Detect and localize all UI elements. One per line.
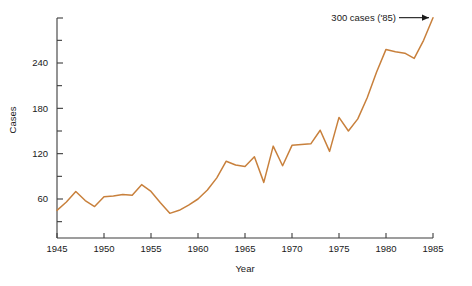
x-tick-label: 1975 <box>328 243 349 254</box>
x-tick-label: 1960 <box>187 243 208 254</box>
x-tick-label: 1980 <box>375 243 396 254</box>
y-axis-title: Cases <box>7 106 18 133</box>
annotation-label: 300 cases ('85) <box>331 12 396 23</box>
chart-figure: 60120180240 1945195019551960196519701975… <box>0 0 472 286</box>
x-tick-label: 1970 <box>281 243 302 254</box>
peak-annotation: 300 cases ('85) <box>331 12 429 23</box>
line-chart: 60120180240 1945195019551960196519701975… <box>0 0 472 286</box>
y-tick-label: 240 <box>32 57 48 68</box>
y-axis: 60120180240 <box>32 18 63 238</box>
x-tick-label: 1955 <box>140 243 161 254</box>
x-axis: 194519501955196019651970197519801985 <box>46 233 443 254</box>
x-tick-label: 1985 <box>422 243 443 254</box>
x-axis-title: Year <box>235 263 254 274</box>
x-tick-label: 1965 <box>234 243 255 254</box>
data-series-cases <box>57 18 433 214</box>
cases-line <box>57 18 433 214</box>
y-tick-label: 60 <box>37 193 48 204</box>
y-tick-label: 180 <box>32 103 48 114</box>
x-tick-label: 1950 <box>93 243 114 254</box>
y-tick-label: 120 <box>32 148 48 159</box>
x-tick-label: 1945 <box>46 243 67 254</box>
